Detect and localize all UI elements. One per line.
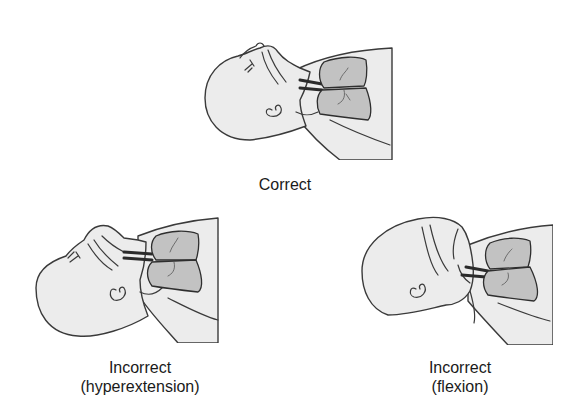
panel-hyperextension: [28, 208, 223, 343]
infant-head-airway-flexed-icon: [358, 205, 553, 345]
panel-flexion: [358, 205, 553, 345]
caption-hyperextension-line2: (hyperextension): [60, 377, 220, 396]
caption-flexion-line1: Incorrect: [410, 358, 510, 377]
caption-flexion-line2: (flexion): [410, 377, 510, 396]
infant-head-airway-hyperextended-icon: [28, 208, 223, 343]
infant-head-airway-neutral-icon: [200, 20, 395, 160]
panel-correct: [200, 20, 395, 160]
caption-hyperextension: Incorrect (hyperextension): [60, 358, 220, 396]
caption-correct: Correct: [230, 175, 340, 194]
caption-hyperextension-line1: Incorrect: [60, 358, 220, 377]
caption-flexion: Incorrect (flexion): [410, 358, 510, 396]
